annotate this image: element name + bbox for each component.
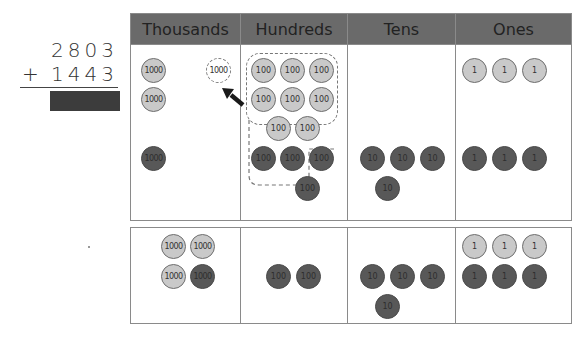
disc-1: 1 [492,146,517,171]
disc-1000: 1000 [141,146,166,171]
disc-1: 1 [522,146,547,171]
addition-problem: 2803 + 1443 [18,38,118,111]
disc-100: 100 [295,176,320,201]
stray-dot [88,246,90,248]
disc-100: 100 [266,116,291,141]
bottom-tens-cell: 10 10 10 10 [348,228,456,324]
disc-1: 1 [522,264,547,289]
addend-2-row: + 1443 [18,62,118,86]
top-ones-cell: 1 1 1 1 1 1 [456,45,572,221]
header-hundreds: Hundreds [241,14,348,45]
disc-10: 10 [375,176,400,201]
disc-10: 10 [420,146,445,171]
disc-1000: 1000 [141,87,166,112]
disc-100: 100 [280,58,305,83]
disc-100: 100 [309,87,334,112]
addend-2: 1443 [51,62,118,86]
place-value-chart-bottom: 1000 1000 1000 1000 100 100 10 10 10 10 … [130,227,572,324]
disc-1000: 1000 [141,58,166,83]
hidden-answer-box [50,91,120,111]
disc-10: 10 [390,264,415,289]
regrouped-disc-1000: 1000 [206,58,231,83]
disc-1: 1 [522,234,547,259]
bottom-hundreds-cell: 100 100 [241,228,348,324]
disc-10: 10 [360,264,385,289]
top-hundreds-cell: 100 100 100 100 100 100 100 100 100 100 … [241,45,348,221]
disc-1000: 1000 [190,234,215,259]
disc-1: 1 [492,58,517,83]
disc-10: 10 [390,146,415,171]
disc-10: 10 [420,264,445,289]
disc-100: 100 [309,58,334,83]
disc-1000: 1000 [161,234,186,259]
header-tens: Tens [348,14,456,45]
bottom-ones-cell: 1 1 1 1 1 1 [456,228,572,324]
disc-1000: 1000 [190,264,215,289]
disc-100: 100 [280,146,305,171]
header-thousands: Thousands [131,14,241,45]
disc-100: 100 [251,146,276,171]
disc-100: 100 [296,264,321,289]
disc-1: 1 [492,264,517,289]
disc-1: 1 [462,234,487,259]
disc-100: 100 [251,58,276,83]
disc-10: 10 [360,146,385,171]
plus-sign: + [22,62,43,86]
disc-100: 100 [309,146,334,171]
disc-10: 10 [375,294,400,319]
disc-1: 1 [462,146,487,171]
disc-100: 100 [266,264,291,289]
place-value-chart-top: Thousands Hundreds Tens Ones 1000 1000 1… [130,13,572,221]
disc-100: 100 [295,116,320,141]
disc-1: 1 [462,58,487,83]
disc-1: 1 [522,58,547,83]
disc-1000: 1000 [161,264,186,289]
disc-100: 100 [251,87,276,112]
sum-rule [20,87,118,88]
disc-1: 1 [462,264,487,289]
disc-100: 100 [280,87,305,112]
bottom-thousands-cell: 1000 1000 1000 1000 [131,228,241,324]
addend-1: 2803 [18,38,118,62]
top-thousands-cell: 1000 1000 1000 1000 [131,45,241,221]
header-ones: Ones [456,14,572,45]
top-tens-cell: 10 10 10 10 [348,45,456,221]
disc-1: 1 [492,234,517,259]
